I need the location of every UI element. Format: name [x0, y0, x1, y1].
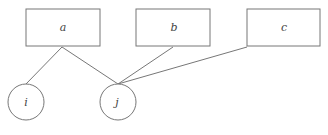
edge-b-j [118, 47, 173, 84]
box-a-label: a [60, 21, 67, 34]
circle-i-label: i [24, 96, 28, 109]
diagram-canvas: a b c i j [0, 0, 328, 135]
edge-a-i [26, 47, 62, 84]
edge-c-j [118, 47, 247, 84]
edge-a-j [62, 47, 118, 84]
box-b-label: b [170, 21, 177, 34]
box-c-label: c [281, 21, 287, 34]
